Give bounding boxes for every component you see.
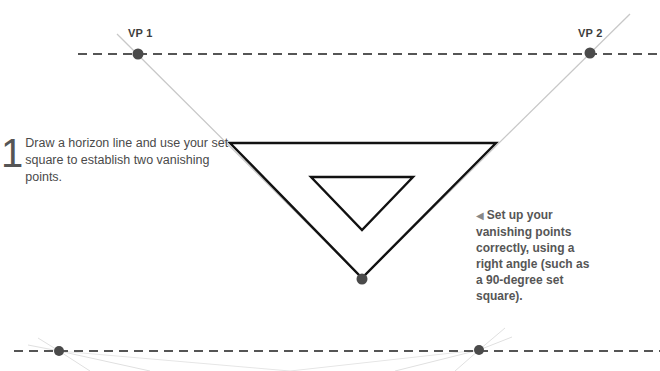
left-arrow-icon: ◀ — [476, 210, 484, 221]
vp1-label: VP 1 — [128, 27, 152, 39]
step-number: 1 — [1, 135, 21, 171]
step-text: Draw a horizon line and use your set squ… — [25, 136, 228, 184]
bottom-vp-left-dot — [54, 346, 64, 356]
vp2-dot — [585, 48, 596, 59]
caption-text: Set up your vanishing points correctly, … — [476, 208, 589, 303]
bottom-vertex-dot — [357, 274, 368, 285]
vp2-label: VP 2 — [578, 27, 602, 39]
vp1-dot — [133, 49, 144, 60]
step-instruction: 1 Draw a horizon line and use your set s… — [0, 135, 240, 186]
inner-triangle — [311, 177, 413, 230]
caption: ◀Set up your vanishing points correctly,… — [476, 207, 596, 304]
bottom-vp-right-dot — [474, 345, 484, 355]
outer-triangle — [230, 143, 496, 278]
bottom-horizon-group — [14, 328, 660, 371]
